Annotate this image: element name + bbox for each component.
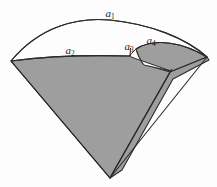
arc-label-a3-base: a [124,40,130,52]
sector-diagram-svg [0,0,217,187]
arc-label-a4: a4 [146,35,155,46]
arc-label-a4-sub: 4 [152,39,156,48]
arc-label-a2: a2 [65,45,74,56]
sector-diagram: a1 a2 a3 a4 [0,0,217,187]
arc-label-a3-sub: 3 [130,45,134,54]
arc-label-a2-base: a [65,44,71,56]
arc-label-a1-base: a [105,7,111,19]
arc-label-a3: a3 [124,41,133,52]
arc-label-a4-base: a [146,34,152,46]
arc-label-a1: a1 [105,8,114,19]
arc-label-a1-sub: 1 [111,12,115,21]
arc-label-a2-sub: 2 [71,49,75,58]
